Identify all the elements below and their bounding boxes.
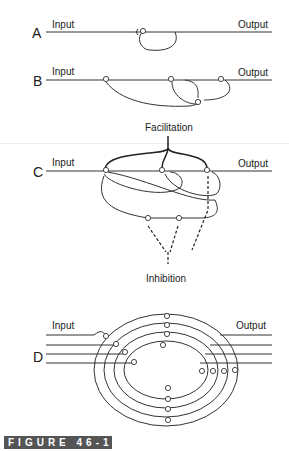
- facilitation-label: Facilitation: [145, 122, 193, 133]
- neuron-icon: [204, 167, 209, 172]
- output-label-c: Output: [238, 158, 268, 169]
- figure-caption: FIGURE 46-14: [8, 437, 122, 448]
- input-label-a: Input: [52, 19, 74, 30]
- neuron-icon: [113, 341, 118, 346]
- neuron-icon: [122, 349, 127, 354]
- neuronal-circuits-diagram: A Input Output B Input Output Facilitati…: [0, 0, 289, 451]
- neuron-icon: [131, 359, 136, 364]
- neuron-icon: [218, 76, 223, 81]
- neuron-icon: [103, 333, 108, 338]
- panel-letter-d: D: [33, 349, 43, 365]
- input-label-c: Input: [52, 157, 74, 168]
- neuron-icon: [159, 167, 164, 172]
- panel-letter-b: B: [33, 73, 42, 89]
- neuron-icon: [164, 313, 169, 318]
- input-label-d: Input: [52, 320, 74, 331]
- panel-letter-a: A: [32, 25, 42, 41]
- panel-b: B Input Output: [33, 66, 272, 106]
- neuron-icon: [165, 396, 170, 401]
- neuron-icon: [165, 385, 170, 390]
- neuron-icon: [160, 342, 165, 347]
- neuron-icon: [210, 368, 215, 373]
- neuron-icon: [103, 76, 108, 81]
- neuron-icon: [165, 417, 170, 422]
- output-label-a: Output: [238, 19, 268, 30]
- neuron-icon: [103, 167, 108, 172]
- neuron-icon: [164, 331, 169, 336]
- panel-letter-c: C: [33, 164, 43, 180]
- output-label-b: Output: [238, 67, 268, 78]
- panel-d: D Input Output: [33, 313, 272, 426]
- neuron-icon: [176, 215, 181, 220]
- neuron-icon: [199, 368, 204, 373]
- neuron-icon: [168, 76, 173, 81]
- neuron-icon: [165, 406, 170, 411]
- neuron-icon: [195, 99, 200, 104]
- neuron-icon: [221, 368, 226, 373]
- neuron-icon: [145, 215, 150, 220]
- neuron-icon: [232, 367, 237, 372]
- neuron-icon: [140, 28, 145, 33]
- inhibition-label: Inhibition: [146, 273, 186, 284]
- neuron-icon: [164, 322, 169, 327]
- panel-c: Facilitation C Input Output Inhibition: [33, 122, 272, 284]
- output-label-d: Output: [236, 320, 266, 331]
- input-label-b: Input: [52, 66, 74, 77]
- panel-a: A Input Output: [32, 19, 272, 50]
